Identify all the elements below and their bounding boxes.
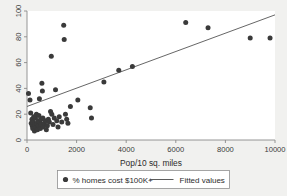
chart-canvas: 0204060801000200040006000800010000Pop/10… — [0, 0, 287, 196]
data-point — [68, 104, 73, 109]
x-tick-label: 2000 — [68, 145, 85, 154]
legend-label-homes: % homes cost $100K+ — [73, 176, 154, 185]
data-point — [88, 105, 93, 110]
legend-marker-icon — [63, 177, 68, 182]
x-axis-title: Pop/10 sq. miles — [120, 158, 182, 168]
y-tick-label: 60 — [14, 58, 23, 66]
plot-panel — [27, 11, 275, 140]
data-point — [51, 122, 56, 127]
data-point — [61, 23, 66, 28]
data-point — [49, 54, 54, 59]
x-tick-label: 8000 — [217, 145, 234, 154]
y-tick-label: 20 — [14, 110, 23, 118]
data-point — [75, 98, 80, 103]
scatter-plot-figure: 0204060801000200040006000800010000Pop/10… — [0, 0, 287, 196]
data-point — [37, 96, 42, 101]
data-point — [40, 88, 45, 93]
data-point — [57, 114, 62, 119]
data-point — [101, 79, 106, 84]
legend-label-fitted: Fitted values — [180, 176, 225, 185]
data-point — [62, 37, 67, 42]
x-tick-label: 6000 — [167, 145, 184, 154]
data-point — [39, 81, 44, 86]
data-point — [130, 64, 135, 69]
data-point — [65, 121, 70, 126]
x-tick-label: 0 — [25, 145, 29, 154]
data-point — [206, 25, 211, 30]
x-tick-label: 10000 — [264, 145, 285, 154]
data-point — [63, 112, 68, 117]
data-point — [26, 91, 31, 96]
data-point — [59, 119, 64, 124]
data-point — [248, 36, 253, 41]
x-tick-label: 4000 — [118, 145, 135, 154]
y-tick-label: 100 — [14, 5, 23, 18]
data-point — [53, 87, 58, 92]
data-point — [116, 68, 121, 73]
y-tick-label: 0 — [14, 138, 23, 142]
y-tick-label: 80 — [14, 33, 23, 41]
data-point — [27, 98, 32, 103]
data-point — [268, 36, 273, 41]
data-point — [56, 125, 61, 130]
y-tick-label: 40 — [14, 84, 23, 92]
data-point — [89, 116, 94, 121]
data-point — [183, 20, 188, 25]
